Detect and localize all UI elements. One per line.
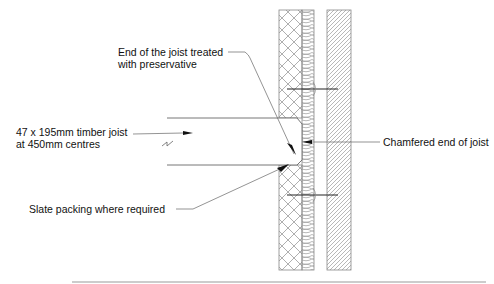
cavity-insulation xyxy=(302,10,314,270)
leader-slate xyxy=(176,164,289,209)
label-preservative-line2: with preservative xyxy=(118,58,223,70)
label-joist-line1: 47 x 195mm timber joist xyxy=(16,126,127,138)
outer-brick-leaf xyxy=(327,10,351,270)
label-preservative: End of the joist treated with preservati… xyxy=(118,46,223,70)
label-slate: Slate packing where required xyxy=(29,203,165,215)
label-preservative-line1: End of the joist treated xyxy=(118,46,223,58)
label-chamfer-text: Chamfered end of joist xyxy=(383,136,489,148)
label-slate-text: Slate packing where required xyxy=(29,203,165,215)
label-chamfer: Chamfered end of joist xyxy=(383,136,489,148)
label-joist: 47 x 195mm timber joist at 450mm centres xyxy=(16,126,127,150)
label-joist-line2: at 450mm centres xyxy=(16,138,127,150)
